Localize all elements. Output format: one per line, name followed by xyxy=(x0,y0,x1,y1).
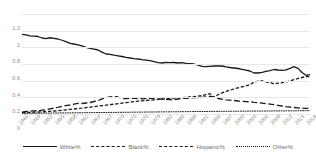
solid-line-key xyxy=(23,146,57,147)
dotted-line-key xyxy=(236,146,270,147)
chart-legend: White%Black%Hispanic%Other% xyxy=(0,140,316,153)
x-axis-tick-label: 1997 xyxy=(222,114,234,126)
x-axis-tick-label: 2003 xyxy=(246,114,258,126)
legend-label: Black% xyxy=(128,144,148,150)
x-axis-tick-label: 1985 xyxy=(174,114,186,126)
x-axis-tick-label: 1952 xyxy=(42,114,54,126)
x-axis-tick-label: 1973 xyxy=(126,114,138,126)
plot-area xyxy=(22,14,310,114)
x-axis-tick-label: 1958 xyxy=(66,114,78,126)
gridline xyxy=(22,97,310,98)
gridline xyxy=(22,14,310,15)
x-axis-tick-label: 1994 xyxy=(210,114,222,126)
x-axis-tick-label: 1961 xyxy=(78,114,90,126)
series-line-white xyxy=(22,34,310,75)
x-axis-tick-label: 1979 xyxy=(150,114,162,126)
gridline xyxy=(22,31,310,32)
legend-label: White% xyxy=(60,144,81,150)
y-axis-labels: 00.20.40.60.811.2 xyxy=(0,14,22,114)
x-axis-tick-label: 2018 xyxy=(306,114,316,126)
x-axis-tick-label: 1988 xyxy=(186,114,198,126)
x-axis-tick-label: 1967 xyxy=(102,114,114,126)
x-axis-tick-label: 1946 xyxy=(18,114,30,126)
legend-item-white[interactable]: White% xyxy=(23,144,81,150)
x-axis-tick-label: 1976 xyxy=(138,114,150,126)
long-dash-line-key xyxy=(91,146,125,147)
medium-dash-line-key xyxy=(159,146,193,147)
x-axis-tick-label: 1955 xyxy=(54,114,66,126)
gridline xyxy=(22,64,310,65)
legend-item-other[interactable]: Other% xyxy=(236,144,293,150)
x-axis-tick-label: 2009 xyxy=(270,114,282,126)
x-axis-tick-label: 1964 xyxy=(90,114,102,126)
line-chart: 00.20.40.60.811.2 1946194919521955195819… xyxy=(0,0,316,155)
y-axis-tick-label: 1 xyxy=(17,42,20,48)
legend-item-hispanic[interactable]: Hispanic% xyxy=(159,144,224,150)
legend-label: Other% xyxy=(273,144,293,150)
x-axis-tick-label: 1970 xyxy=(114,114,126,126)
y-axis-tick-label: 0 xyxy=(17,125,20,131)
y-axis-tick-label: 1.2 xyxy=(12,25,20,31)
gridline xyxy=(22,81,310,82)
series-line-other xyxy=(22,111,310,114)
legend-label: Hispanic% xyxy=(196,144,224,150)
x-axis-tick-label: 1982 xyxy=(162,114,174,126)
x-axis-labels: 1946194919521955195819611964196719701973… xyxy=(22,114,310,140)
x-axis-tick-label: 1991 xyxy=(198,114,210,126)
y-axis-tick-label: 0.6 xyxy=(12,75,20,81)
x-axis-tick-label: 2000 xyxy=(234,114,246,126)
x-axis-tick-label: 2006 xyxy=(258,114,270,126)
y-axis-tick-label: 0.8 xyxy=(12,58,20,64)
gridline xyxy=(22,47,310,48)
y-axis-tick-label: 0.2 xyxy=(12,108,20,114)
x-axis-tick-label: 1949 xyxy=(30,114,42,126)
legend-item-black[interactable]: Black% xyxy=(91,144,148,150)
y-axis-tick-label: 0.4 xyxy=(12,92,20,98)
series-line-hispanic xyxy=(22,77,310,113)
x-axis-tick-label: 2015 xyxy=(294,114,306,126)
x-axis-tick-label: 2012 xyxy=(282,114,294,126)
